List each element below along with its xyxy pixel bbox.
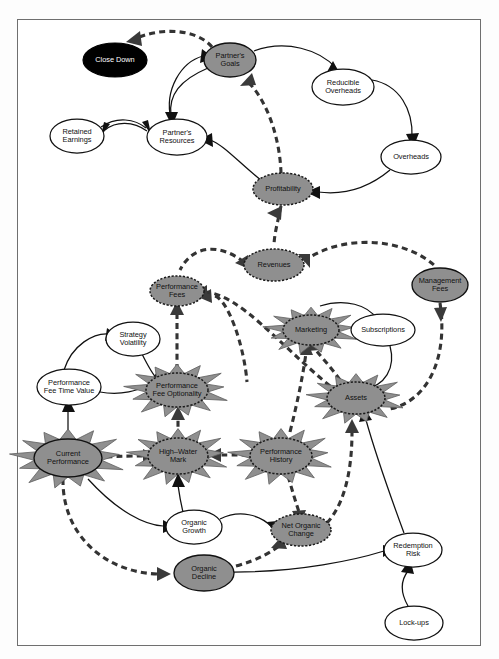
node-shape-management_fees[interactable] (412, 268, 468, 302)
edge-redemption-risk-to-assets (359, 407, 404, 533)
edge-perf-history-to-marketing (290, 341, 313, 432)
edge-reducible-overheads-to-overheads (372, 80, 419, 148)
node-subscriptions[interactable]: Subscriptions (351, 314, 415, 346)
edge-net-organic-change-to-assets (327, 419, 359, 523)
node-perf_fee_opt[interactable]: PerformanceFee Optionality (124, 364, 228, 417)
node-shape-overheads[interactable] (381, 140, 441, 174)
node-overheads[interactable]: Overheads (381, 140, 441, 174)
edge-profitability-to-partners-resources (199, 133, 262, 181)
diagram-page: Close DownPartner'sGoalsReducibleOverhea… (0, 0, 499, 659)
node-lock_ups[interactable]: Lock-ups (385, 606, 443, 640)
node-shape-profitability[interactable] (253, 173, 313, 205)
node-shape-subscriptions[interactable] (351, 314, 415, 346)
node-shape-perf_history[interactable] (250, 438, 312, 474)
edge-revenues-to-performance-fees (180, 249, 249, 270)
node-high_water[interactable]: High–WaterMark (126, 429, 226, 485)
node-reducible_oh[interactable]: ReducibleOverheads (312, 69, 374, 105)
node-partners_res[interactable]: Partner'sResources (147, 119, 207, 155)
node-perf_fee_time[interactable]: PerformanceFee Time Value (37, 369, 101, 405)
node-shape-close_down[interactable] (83, 43, 147, 77)
edge-profitability-to-partners-goals (240, 73, 281, 173)
edge-partners-goals-to-partners-resources (165, 68, 208, 126)
node-current_perf[interactable]: CurrentPerformance (9, 429, 123, 488)
edge-organic-growth-to-high-water-mark (172, 473, 185, 512)
node-shape-lock_ups[interactable] (385, 606, 443, 640)
node-perf_history[interactable]: PerformanceHistory (228, 429, 332, 485)
node-assets[interactable]: Assets (306, 374, 403, 424)
node-organic_decline[interactable]: OrganicDecline (174, 555, 234, 591)
node-shape-assets[interactable] (327, 382, 385, 414)
node-shape-revenues[interactable] (244, 249, 304, 281)
edge-current-performance-to-organic-decline (63, 479, 171, 581)
node-strategy_vol[interactable]: StrategyVolatility (106, 322, 160, 356)
node-shape-high_water[interactable] (148, 438, 208, 474)
node-redemption_risk[interactable]: RedemptionRisk (384, 533, 442, 567)
edge-organic-growth-to-net-organic-change (220, 514, 277, 534)
edge-current-performance-to-organic-growth (88, 479, 176, 533)
edge-performance-fees-to-revenues (198, 289, 247, 382)
edge-profitability-to-revenues (267, 206, 282, 246)
node-shape-partners_goals[interactable] (204, 43, 256, 77)
node-shape-net_organic[interactable] (271, 514, 331, 546)
causal-loop-diagram: Close DownPartner'sGoalsReducibleOverhea… (0, 0, 499, 659)
edge-partners-goals-to-close-down (126, 31, 212, 47)
node-shape-perf_fee_opt[interactable] (146, 373, 208, 407)
node-close_down[interactable]: Close Down (83, 43, 147, 77)
node-shape-perf_fee_time[interactable] (37, 369, 101, 405)
node-shape-redemption_risk[interactable] (384, 533, 442, 567)
node-net_organic[interactable]: Net OrganicChange (271, 514, 331, 546)
edge-perf-fee-optionality-to-performance-fees (170, 301, 184, 370)
node-shape-current_perf[interactable] (34, 439, 102, 477)
node-shape-retained_earnings[interactable] (50, 119, 104, 153)
node-shape-performance_fees[interactable] (150, 276, 204, 306)
node-management_fees[interactable]: ManagementFees (412, 268, 468, 302)
node-profitability[interactable]: Profitability (253, 173, 313, 205)
node-shape-organic_decline[interactable] (174, 555, 234, 591)
node-organic_growth[interactable]: OrganicGrowth (166, 510, 222, 544)
node-shape-organic_growth[interactable] (166, 510, 222, 544)
node-shape-marketing[interactable] (283, 315, 339, 345)
node-revenues[interactable]: Revenues (244, 249, 304, 281)
edge-overheads-to-profitability (306, 170, 390, 199)
node-shape-partners_res[interactable] (147, 119, 207, 155)
node-shape-strategy_vol[interactable] (106, 322, 160, 356)
node-partners_goals[interactable]: Partner'sGoals (204, 43, 256, 77)
edge-revenues-to-management-fees (298, 242, 434, 268)
node-performance_fees[interactable]: PerformanceFees (150, 276, 204, 306)
node-shape-reducible_oh[interactable] (312, 69, 374, 105)
node-retained_earnings[interactable]: RetainedEarnings (50, 119, 104, 153)
